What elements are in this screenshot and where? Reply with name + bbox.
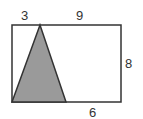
label-bottom-right: 6 <box>89 105 96 119</box>
label-top-left: 3 <box>21 8 28 23</box>
label-top-right: 9 <box>76 8 83 23</box>
label-right-side: 8 <box>125 56 132 71</box>
shaded-triangle <box>12 25 66 102</box>
geometry-figure: 3 9 8 6 <box>0 0 143 119</box>
